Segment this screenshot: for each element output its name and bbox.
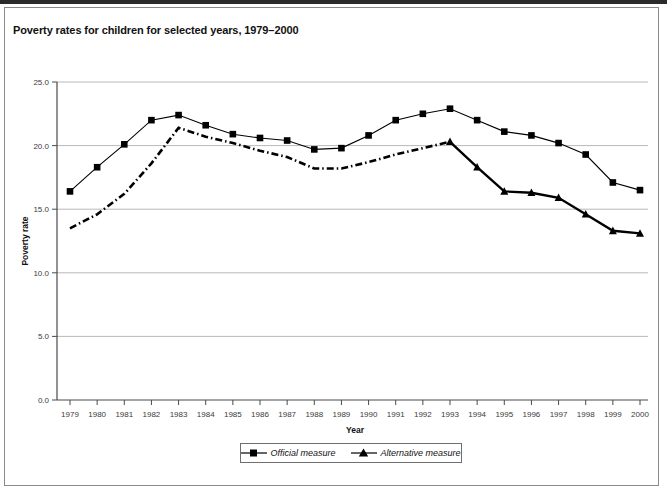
data-point-official-1995[interactable] (501, 128, 508, 135)
y-axis-tick-label: 20.0 (33, 142, 49, 151)
line-chart: 0.05.010.015.020.025.0197919801981198219… (0, 0, 667, 493)
legend-label-official: Official measure (270, 448, 335, 458)
legend-item-alternative[interactable]: Alternative measure (351, 448, 460, 458)
y-axis-tick-label: 15.0 (33, 205, 49, 214)
x-axis-tick-label: 1995 (495, 410, 513, 419)
data-point-alternative-1993[interactable] (446, 138, 454, 146)
data-point-official-1988[interactable] (311, 146, 318, 153)
x-axis-tick-label: 1988 (305, 410, 323, 419)
data-point-official-1985[interactable] (230, 131, 237, 138)
data-point-official-1999[interactable] (610, 179, 617, 186)
data-point-official-1992[interactable] (420, 111, 427, 118)
x-axis-tick-label: 1982 (143, 410, 161, 419)
x-axis-tick-label: 2000 (631, 410, 649, 419)
y-axis-tick-label: 5.0 (38, 332, 50, 341)
x-axis-tick-label: 1996 (523, 410, 541, 419)
x-axis-tick-label: 1980 (88, 410, 106, 419)
series-line-alternative-solid (450, 142, 640, 234)
x-axis-tick-label: 1986 (251, 410, 269, 419)
x-axis-tick-label: 1985 (224, 410, 242, 419)
triangle-marker-icon (351, 448, 377, 458)
x-axis-tick-label: 1999 (604, 410, 622, 419)
data-point-official-2000[interactable] (637, 187, 644, 194)
x-axis-tick-label: 1994 (468, 410, 486, 419)
legend-label-alternative: Alternative measure (380, 448, 460, 458)
data-point-official-1981[interactable] (121, 141, 128, 148)
x-axis-tick-label: 1984 (197, 410, 215, 419)
series-line-official (70, 109, 640, 192)
chart-legend: Official measure Alternative measure (240, 443, 462, 463)
x-axis-tick-label: 1983 (170, 410, 188, 419)
data-point-official-1998[interactable] (582, 151, 589, 158)
y-axis-title: Poverty rate (20, 216, 30, 265)
x-axis-tick-label: 1981 (115, 410, 133, 419)
x-axis-tick-label: 1989 (333, 410, 351, 419)
x-axis-tick-label: 1993 (441, 410, 459, 419)
square-marker-icon (241, 448, 267, 458)
x-axis-tick-label: 1998 (577, 410, 595, 419)
data-point-official-1996[interactable] (528, 132, 535, 139)
data-point-official-1980[interactable] (94, 164, 101, 171)
data-point-official-1993[interactable] (447, 105, 454, 112)
data-point-official-1983[interactable] (175, 112, 182, 119)
y-axis-tick-label: 10.0 (33, 269, 49, 278)
x-axis-tick-label: 1979 (61, 410, 79, 419)
data-point-official-1990[interactable] (365, 132, 372, 139)
data-point-official-1997[interactable] (555, 140, 562, 147)
data-point-official-1994[interactable] (474, 117, 481, 124)
legend-item-official[interactable]: Official measure (241, 448, 335, 458)
x-axis-title: Year (346, 425, 365, 435)
x-axis-tick-label: 1991 (387, 410, 405, 419)
figure-container: Poverty rates for children for selected … (0, 0, 667, 493)
x-axis-tick-label: 1990 (360, 410, 378, 419)
y-axis-tick-label: 25.0 (33, 78, 49, 87)
data-point-official-1989[interactable] (338, 145, 345, 152)
x-axis-tick-label: 1987 (278, 410, 296, 419)
data-point-official-1987[interactable] (284, 137, 291, 144)
data-point-official-1984[interactable] (202, 122, 209, 129)
plot-area: 0.05.010.015.020.025.0197919801981198219… (0, 0, 667, 493)
data-point-official-1991[interactable] (392, 117, 399, 124)
x-axis-tick-label: 1992 (414, 410, 432, 419)
y-axis-tick-label: 0.0 (38, 396, 50, 405)
data-point-official-1982[interactable] (148, 117, 155, 124)
data-point-official-1986[interactable] (257, 135, 264, 142)
data-point-official-1979[interactable] (67, 188, 74, 195)
x-axis-tick-label: 1997 (550, 410, 568, 419)
